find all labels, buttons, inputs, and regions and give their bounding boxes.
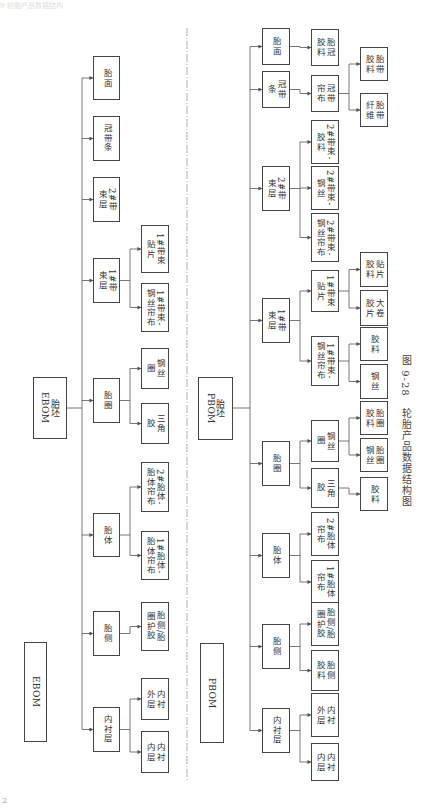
pbom-node-belt2: 2#带 束层	[262, 166, 290, 211]
pbom-subnode-cap_ply-label: 冠带 帘布	[315, 84, 335, 103]
ebom-root-label: 胎坯 EBOM	[40, 392, 60, 423]
ebom-subnode-label: 1#胎体- 胎体帘布	[145, 537, 165, 575]
figure-title: 轮胎产品数据结构图	[400, 408, 411, 507]
ebom-subnode-label: 内衬 内层	[145, 743, 165, 762]
ebom-root-box: 胎坯 EBOM	[33, 377, 67, 439]
pbom-material-node-label: 钢丝	[369, 372, 379, 391]
pbom-subnode-tread_comp: 胎冠 胶料	[311, 29, 339, 66]
ebom-subnode: 内衬 外层	[141, 678, 169, 720]
pbom-material-node: 胎圈 钢丝	[360, 438, 388, 472]
ebom-node-innerliner-label: 内衬层	[102, 715, 112, 744]
pbom-subnode-sw_chafer: 胎侧/胎 圈护胶	[311, 602, 339, 646]
pbom-material-node: 胶料	[360, 477, 388, 511]
pbom-subnode-bead_wire: 钢丝 圈	[311, 420, 339, 462]
pbom-subnode-tread_comp-label: 胎冠 胶料	[315, 38, 335, 57]
pbom-subnode-il_outer-label: 内衬 外层	[315, 706, 335, 725]
ebom-subnode: 1#带束- 钢丝帘布	[141, 283, 169, 332]
pbom-subnode-sw_chafer-label: 胎侧/胎 圈护胶	[315, 608, 335, 640]
ebom-node-cap_strip-label: 冠带条	[102, 124, 112, 153]
page-number: 2	[2, 796, 7, 805]
ebom-node-cap_strip: 冠带条	[93, 116, 120, 161]
ebom-node-sidewall: 胎侧	[93, 611, 120, 656]
ebom-subnode-label: 钢丝 圈	[145, 359, 165, 378]
pbom-title: PBOM	[207, 678, 217, 709]
ebom-subnode-label: 胎侧/胎 圈护胶	[145, 611, 165, 643]
pbom-subnode-b2_ply-label: 2#带束- 钢丝帘布	[315, 219, 335, 257]
ebom-subnode-label: 2#胎体- 胎体帘布	[145, 468, 165, 506]
ebom-node-carcass: 胎体	[93, 513, 120, 557]
tire-product-data-structure-diagram: 9 轮胎产品数据结构 EBOM 胎坯 EBOM PBOM 胎坯 PBOM 胎面冠…	[0, 0, 422, 808]
ebom-node-belt1-label: 1#带 束层	[97, 269, 117, 292]
pbom-subnode-il_inner: 内衬 内层	[311, 743, 339, 781]
ebom-subnode: 2#胎体- 胎体帘布	[141, 462, 169, 512]
pbom-node-innerliner: 内衬层	[262, 708, 290, 753]
pbom-node-carcass: 胎体	[262, 533, 290, 578]
pbom-subnode-sw_comp-label: 胎侧 胶料	[315, 661, 335, 680]
ebom-title: EBOM	[31, 676, 41, 707]
figure-caption: 图 9-28 轮胎产品数据结构图	[398, 355, 413, 507]
ebom-node-sidewall-label: 胎侧	[102, 624, 112, 643]
ebom-subnode-label: 1#带束 贴片	[145, 233, 165, 266]
pbom-node-sidewall-label: 胎侧	[271, 637, 281, 656]
pbom-subnode-b1_ply-label: 1#带束- 钢丝帘布	[315, 342, 335, 380]
ebom-subnode-label: 1#带束- 钢丝帘布	[145, 289, 165, 327]
pbom-subnode-b1_ply: 1#带束- 钢丝帘布	[311, 336, 339, 386]
ebom-subnode: 1#胎体- 胎体帘布	[141, 531, 169, 580]
pbom-subnode-apex-label: 三角 胶	[315, 479, 335, 498]
pbom-subnode-c2_ply: 2#胎体 帘布	[311, 512, 339, 556]
pbom-node-sidewall: 胎侧	[262, 624, 290, 669]
pbom-material-node-label: 胎圈 胶料	[364, 409, 384, 428]
ebom-subnode-label: 三角 胶	[145, 414, 165, 433]
pbom-material-node: 贴片 胶料	[360, 252, 388, 287]
pbom-node-belt1-label: 1#带 束层	[266, 309, 286, 332]
ebom-node-bead: 胎圈	[93, 378, 120, 423]
pbom-node-bead: 胎圈	[262, 441, 290, 486]
pbom-material-node: 胎圈 胶料	[360, 401, 388, 435]
pbom-subnode-b2_wire-label: 2#带束- 钢丝	[315, 170, 335, 206]
pbom-subnode-b1_patch-label: 1#带束 贴片	[315, 275, 335, 308]
pbom-subnode-b2_rubber: 2#带束- 胶料	[311, 120, 339, 164]
pbom-node-belt2-label: 2#带 束层	[266, 177, 286, 200]
ebom-subnode-label: 内衬 外层	[145, 690, 165, 709]
ebom-subnode: 胎侧/胎 圈护胶	[141, 602, 169, 651]
pbom-subnode-sw_comp: 胎侧 胶料	[311, 650, 339, 691]
pbom-root-box: 胎坯 PBOM	[198, 377, 233, 440]
ebom-subnode: 三角 胶	[141, 403, 169, 444]
pbom-node-bead-label: 胎圈	[271, 454, 281, 473]
pbom-material-node: 钢丝	[360, 364, 388, 399]
pbom-title-box: PBOM	[200, 643, 224, 743]
pbom-node-cap_strip-label: 冠带 条	[266, 80, 286, 99]
pbom-material-node: 胶料	[360, 327, 388, 361]
pbom-material-node-label: 大卷 胶片	[364, 299, 384, 318]
ebom-node-innerliner: 内衬层	[93, 707, 120, 752]
ebom-node-belt1: 1#带 束层	[93, 258, 120, 303]
pbom-subnode-cap_ply: 冠带 帘布	[311, 75, 339, 112]
pbom-root-label: 胎坯 PBOM	[206, 393, 226, 424]
ebom-node-belt2-label: 2#带 束层	[97, 188, 117, 211]
ebom-node-carcass-label: 胎体	[102, 526, 112, 545]
pbom-node-cap_strip: 冠带 条	[262, 71, 290, 108]
pbom-subnode-il_outer: 内衬 外层	[311, 693, 339, 737]
pbom-subnode-b2_wire: 2#带束- 钢丝	[311, 166, 339, 210]
pbom-node-innerliner-label: 内衬层	[271, 716, 281, 745]
pbom-node-carcass-label: 胎体	[271, 546, 281, 565]
ebom-node-tread-label: 胎面	[102, 69, 112, 88]
pbom-material-node-label: 胎带 胶料	[364, 55, 384, 74]
ebom-title-box: EBOM	[24, 642, 47, 742]
pbom-material-node-label: 胶料	[369, 335, 379, 354]
ebom-subnode: 内衬 内层	[141, 731, 169, 773]
ebom-node-tread: 胎面	[93, 56, 120, 100]
pbom-node-tread: 胎面	[262, 28, 290, 65]
pbom-subnode-c1_ply-label: 1#胎体 帘布	[315, 566, 335, 599]
pbom-material-node: 大卷 胶片	[360, 290, 388, 326]
pbom-subnode-bead_wire-label: 钢丝 圈	[315, 432, 335, 451]
pbom-subnode-apex: 三角 胶	[311, 468, 339, 508]
ebom-subnode: 钢丝 圈	[141, 348, 169, 389]
pbom-material-node-label: 贴片 胶料	[364, 260, 384, 279]
pbom-subnode-c2_ply-label: 2#胎体 帘布	[315, 518, 335, 551]
pbom-subnode-il_inner-label: 内衬 内层	[315, 753, 335, 772]
pbom-material-node-label: 胎带 纤维	[364, 101, 384, 120]
ebom-node-bead-label: 胎圈	[102, 391, 112, 410]
pbom-node-tread-label: 胎面	[271, 37, 281, 56]
pbom-subnode-b2_ply: 2#带束- 钢丝帘布	[311, 213, 339, 262]
